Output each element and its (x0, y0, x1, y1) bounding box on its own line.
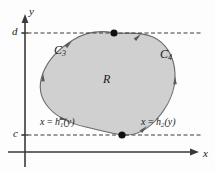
y-axis-label: y (29, 6, 34, 17)
tick-label-d: d (12, 26, 18, 37)
left-eq-subscript: 1 (60, 121, 63, 128)
curve-label-c4: C4 (160, 48, 172, 60)
figure-container: y x d c C3 C4 R x = h1(y) x = h2(y) (0, 0, 215, 171)
curve-label-c3-letter: C (54, 43, 62, 57)
x-axis-arrowhead-icon (190, 149, 199, 156)
left-boundary-equation-label: x = h1(y) (40, 117, 75, 127)
x-axis-label: x (203, 148, 208, 159)
region-label-r: R (103, 73, 110, 85)
y-axis-arrowhead-icon (22, 14, 29, 23)
left-eq-operator: = (44, 116, 55, 127)
curve-label-c4-letter: C (160, 47, 168, 61)
right-eq-operator: = (145, 116, 156, 127)
vertex-dot-bottom (118, 131, 125, 138)
curve-label-c3-subscript: 3 (62, 49, 66, 58)
right-boundary-equation-label: x = h2(y) (141, 117, 176, 127)
right-eq-subscript: 2 (161, 121, 164, 128)
curve-label-c4-subscript: 4 (168, 53, 172, 62)
tick-label-c: c (13, 128, 18, 139)
left-eq-argument: (y) (63, 116, 74, 127)
curve-label-c3: C3 (54, 44, 66, 56)
right-eq-argument: (y) (164, 116, 175, 127)
vertex-dot-top (110, 29, 117, 36)
